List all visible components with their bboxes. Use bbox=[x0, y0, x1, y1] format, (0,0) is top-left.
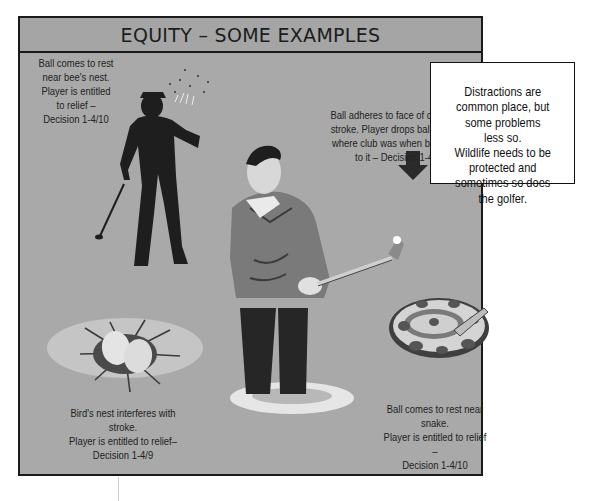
caption-snake: Ball comes to rest near snake. Player is… bbox=[382, 402, 489, 472]
panel-title: EQUITY – SOME EXAMPLES bbox=[20, 18, 481, 53]
callout-box: Distractions are common place, but some … bbox=[430, 62, 575, 184]
callout-text: Distractions are common place, but some … bbox=[454, 84, 550, 206]
caption-bees-nest: Ball comes to rest near bee's nest. Play… bbox=[35, 56, 117, 126]
equity-panel: EQUITY – SOME EXAMPLES bbox=[18, 16, 483, 476]
caption-birds-nest: Bird's nest interferes with stroke. Play… bbox=[62, 406, 185, 462]
divider-line bbox=[118, 477, 119, 501]
birds-nest-with-eggs-icon bbox=[40, 308, 210, 408]
coiled-snake-icon bbox=[384, 286, 494, 366]
